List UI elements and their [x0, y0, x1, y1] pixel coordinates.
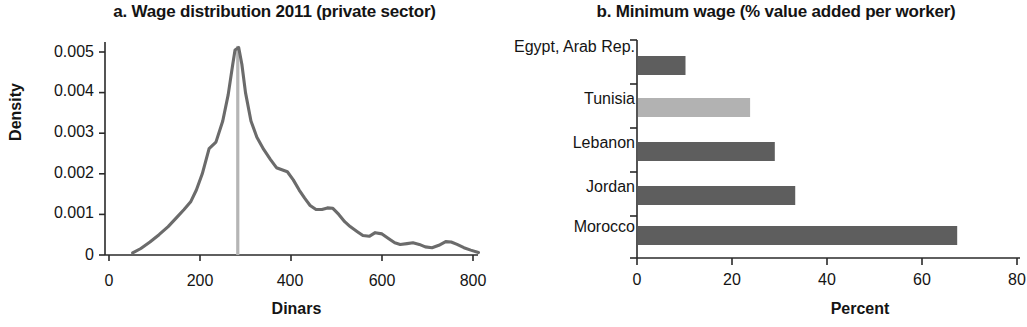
panel-b-bar	[638, 142, 775, 161]
panel-a-wage-distribution: a. Wage distribution 2011 (private secto…	[0, 0, 513, 327]
panel-b-minimum-wage: b. Minimum wage (% value added per worke…	[513, 0, 1027, 327]
panel-b-bar	[638, 186, 795, 205]
panel-a-density-curve	[133, 48, 479, 253]
two-panel-figure: a. Wage distribution 2011 (private secto…	[0, 0, 1027, 327]
panel-b-bar	[638, 98, 750, 117]
panel-b-plot	[513, 0, 1027, 327]
panel-b-bar	[638, 56, 686, 75]
panel-b-bar	[638, 226, 957, 245]
panel-a-plot	[0, 0, 513, 327]
